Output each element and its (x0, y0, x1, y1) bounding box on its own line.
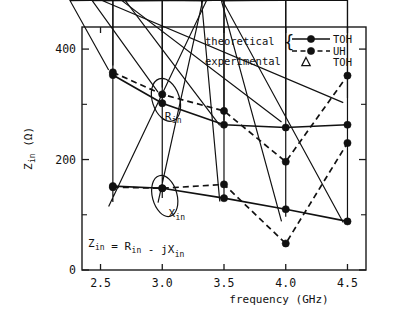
impedance-equation: Zin = Rin - jXin (88, 237, 185, 259)
legend-swatch-dot (307, 35, 314, 42)
x-tick-label: 3.0 (152, 276, 173, 290)
data-point (282, 240, 289, 247)
legend-swatch-dot (307, 47, 314, 54)
legend-label: TOH (333, 56, 352, 68)
data-point-triangle (221, 0, 285, 221)
figure-container: 2.53.03.54.04.50200400 RinXinZin = Rin -… (0, 0, 416, 316)
svg-text:Zin (Ω): Zin (Ω) (22, 127, 37, 170)
legend-group: theoretical{TOHUHexperimentalTOH (205, 32, 352, 68)
data-point-triangle (70, 0, 113, 70)
y-tick-label: 0 (69, 263, 76, 277)
legend-swatch-triangle (302, 57, 310, 65)
legend-label: TOH (333, 33, 352, 45)
legend-group-label-theoretical: theoretical (205, 35, 275, 47)
legend-entry-toh-triangle[interactable]: TOH (302, 56, 352, 68)
series-line (113, 143, 348, 244)
y-tick-label: 200 (55, 153, 76, 167)
data-point-triangle (109, 0, 207, 206)
x-tick-label: 2.5 (90, 276, 111, 290)
legend-group-label-experimental: experimental (205, 55, 281, 67)
x-axis-title: frequency (GHz) (229, 293, 328, 306)
y-tick-label: 400 (55, 42, 76, 56)
legend-brace: { (284, 32, 294, 52)
annotations-group: RinXinZin = Rin - jXin (88, 75, 186, 259)
y-axis-title: Zin (Ω) (22, 127, 37, 170)
series-line (113, 72, 348, 161)
annotation-label-rin: Rin (165, 110, 182, 125)
legend-entry-toh-solid[interactable]: TOH (292, 33, 352, 45)
data-point-triangle (202, 0, 224, 201)
series-r_in-theoretical-TOH (109, 71, 351, 131)
data-point (344, 218, 351, 225)
chart-canvas: 2.53.03.54.04.50200400 RinXinZin = Rin -… (0, 0, 416, 316)
series-x_in-experimental-TOH (109, 0, 348, 222)
x-tick-label: 3.5 (214, 276, 235, 290)
x-tick-label: 4.5 (337, 276, 358, 290)
series-x_in-theoretical-UH (109, 139, 351, 247)
series-x_in-theoretical-TOH (109, 182, 351, 225)
x-tick-label: 4.0 (275, 276, 296, 290)
